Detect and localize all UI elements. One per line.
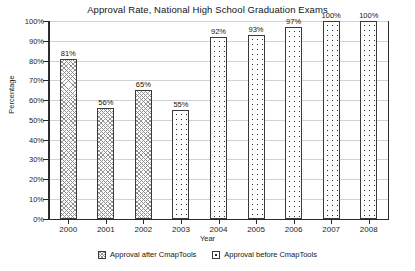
y-axis-tick-label: 0% (4, 215, 44, 224)
bar-value-label: 65% (127, 80, 159, 89)
y-axis-tick-label: 90% (4, 37, 44, 46)
plot-area: 81%200056%200165%200255%200392%200493%20… (48, 21, 389, 220)
y-axis-tick (43, 41, 48, 42)
y-axis-tick (43, 159, 48, 160)
legend-item: Approval before CmapTools (212, 250, 317, 259)
bar-2002 (135, 90, 152, 218)
y-axis-tick (43, 219, 48, 220)
y-axis-tick (43, 199, 48, 200)
legend-swatch-dots (212, 251, 220, 259)
x-axis-tick (369, 220, 370, 224)
x-axis-tick-label: 2002 (125, 225, 161, 234)
x-axis-tick-label: 2008 (351, 225, 387, 234)
y-axis-tick-label: 40% (4, 136, 44, 145)
x-axis-tick (331, 220, 332, 224)
x-axis-tick (106, 220, 107, 224)
x-axis-tick (219, 220, 220, 224)
bar-value-label: 100% (353, 11, 385, 20)
x-axis-tick-label: 2005 (238, 225, 274, 234)
x-axis-title: Year (0, 234, 415, 243)
legend-item: Approval after CmapTools (98, 250, 196, 259)
x-axis-tick-label: 2006 (276, 225, 312, 234)
x-axis-tick-label: 2004 (201, 225, 237, 234)
x-axis-tick-label: 2000 (50, 225, 86, 234)
y-axis-tick (43, 80, 48, 81)
bar-value-label: 92% (203, 27, 235, 36)
x-axis-tick (256, 220, 257, 224)
y-axis-tick-label: 100% (4, 17, 44, 26)
y-axis-tick-labels: 0%10%20%30%40%50%60%70%80%90%100% (0, 21, 44, 220)
y-axis-tick (43, 100, 48, 101)
bar-2004 (210, 37, 227, 219)
bar-2005 (248, 35, 265, 219)
bar-2000 (60, 59, 77, 219)
y-axis-tick-label: 20% (4, 175, 44, 184)
x-axis-tick-label: 2007 (313, 225, 349, 234)
y-axis-tick-label: 60% (4, 96, 44, 105)
bar-2007 (323, 21, 340, 219)
legend-label: Approval before CmapTools (224, 250, 317, 259)
bar-value-label: 55% (165, 100, 197, 109)
bar-value-label: 97% (278, 17, 310, 26)
bar-chart: Approval Rate, National High School Grad… (0, 0, 415, 271)
x-axis-tick (181, 220, 182, 224)
bar-value-label: 100% (315, 11, 347, 20)
y-axis-tick (43, 140, 48, 141)
x-axis-tick-label: 2001 (88, 225, 124, 234)
y-axis-tick-label: 10% (4, 195, 44, 204)
bar-2008 (360, 21, 377, 219)
chart-legend: Approval after CmapToolsApproval before … (0, 250, 415, 259)
x-axis-tick (143, 220, 144, 224)
y-axis-tick-label: 70% (4, 76, 44, 85)
bar-value-label: 81% (52, 49, 84, 58)
bar-2001 (97, 108, 114, 219)
y-axis-tick (43, 179, 48, 180)
bar-value-label: 56% (90, 98, 122, 107)
bar-value-label: 93% (240, 25, 272, 34)
y-axis-tick-label: 80% (4, 57, 44, 66)
y-axis-tick-label: 50% (4, 116, 44, 125)
legend-label: Approval after CmapTools (110, 250, 196, 259)
bar-2003 (172, 110, 189, 219)
y-axis-tick-label: 30% (4, 155, 44, 164)
plot-right-border (388, 21, 390, 220)
y-axis-tick (43, 61, 48, 62)
x-axis-tick (68, 220, 69, 224)
y-axis-tick (43, 21, 48, 22)
bar-2006 (285, 27, 302, 219)
x-axis-tick-label: 2003 (163, 225, 199, 234)
legend-swatch-hatch (98, 251, 106, 259)
y-axis-tick (43, 120, 48, 121)
x-axis-tick (294, 220, 295, 224)
